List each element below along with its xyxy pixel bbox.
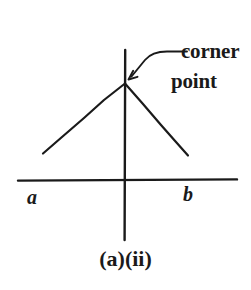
corner-annotation-line1: corner <box>181 41 239 62</box>
x-axis-label-a: a <box>27 187 37 207</box>
figure-corner-point: corner point a b (a)(ii) <box>0 0 251 290</box>
curve-right-branch <box>125 84 188 156</box>
figure-caption: (a)(ii) <box>0 248 251 270</box>
curve-left-branch <box>43 84 125 154</box>
x-axis-line <box>18 179 237 180</box>
y-axis-line <box>125 50 126 240</box>
x-axis-label-b: b <box>183 184 193 204</box>
corner-annotation-line2: point <box>171 71 217 92</box>
